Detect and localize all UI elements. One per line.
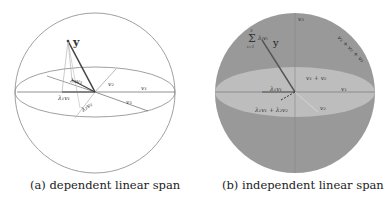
label-v3-a: v₃ <box>126 98 132 105</box>
label-v1v2-b: v₁ + v₂ <box>306 74 327 81</box>
sum-term: λᵢvᵢ <box>257 34 268 41</box>
label-l12-b: λ₁v₁ + λ₂v₂ <box>254 106 288 113</box>
label-y-a: y <box>72 36 80 49</box>
panel-b-diagram: v₃ v₁ + v₂ + v₃ Σ 3 i=1 λᵢvᵢ y v₁ + v₂ v… <box>215 13 375 173</box>
sphere-a <box>15 13 175 173</box>
caption-b: (b) independent linear span <box>222 178 384 192</box>
panel-a-diagram: y λ₁v₁ λ₃v₃ λ₂v₂ v₂ v₁ v₃ <box>15 13 175 173</box>
label-l1v1-b: λ₁v₁ <box>269 85 282 92</box>
label-l1v1-a: λ₁v₁ <box>57 94 70 101</box>
label-v2-b: v₂ <box>320 104 326 111</box>
label-v3-b: v₃ <box>298 15 304 22</box>
label-y-b: y <box>272 37 279 48</box>
label-v1-b: v₁ <box>341 85 347 92</box>
label-v2-a: v₂ <box>108 80 114 87</box>
sum-lower: i=1 <box>247 44 254 49</box>
label-v1-a: v₁ <box>141 84 147 91</box>
caption-a: (a) dependent linear span <box>30 178 180 192</box>
